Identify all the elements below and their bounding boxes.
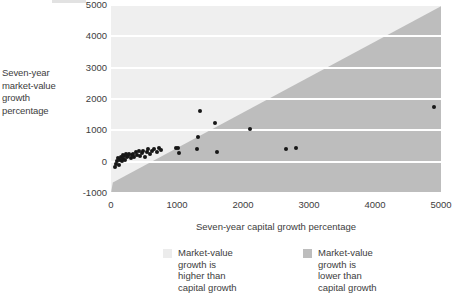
legend-higher-line-3: higher than xyxy=(178,270,237,282)
y-axis-title-line-1: Seven-year xyxy=(2,67,74,80)
x-axis-tick-label: 0 xyxy=(108,199,113,210)
gridline xyxy=(111,192,441,193)
legend-swatch-light-icon xyxy=(163,249,172,258)
scatter-point xyxy=(196,135,200,139)
legend-higher-line-2: growth is xyxy=(178,259,237,271)
y-axis-tick-label: -1000 xyxy=(71,187,107,198)
x-axis-tick-label: 1000 xyxy=(166,199,187,210)
gridline xyxy=(111,35,441,37)
gridline xyxy=(111,161,441,163)
gridline xyxy=(111,67,441,69)
legend-lower-line-1: Market-value xyxy=(318,247,377,259)
y-axis-title-line-4: percentage xyxy=(2,105,74,118)
y-axis-tick-label: 3000 xyxy=(71,62,107,73)
gridline xyxy=(111,98,441,100)
scatter-point xyxy=(284,147,288,151)
legend-label-lower: Market-value growth is lower than capita… xyxy=(318,247,377,293)
plot-area xyxy=(111,5,441,193)
x-axis-tick-label: 2000 xyxy=(232,199,253,210)
scatter-point xyxy=(155,150,159,154)
y-axis-tick-label: 1000 xyxy=(71,124,107,135)
y-axis-tick-label: 4000 xyxy=(71,30,107,41)
scatter-point xyxy=(159,148,163,152)
scatter-point xyxy=(117,163,121,167)
legend-lower-line-4: capital growth xyxy=(318,282,377,294)
x-axis-tick-label: 4000 xyxy=(364,199,385,210)
legend-higher-line-1: Market-value xyxy=(178,247,237,259)
legend-swatch-dark-icon xyxy=(303,249,312,258)
scatter-point xyxy=(215,150,219,154)
scatter-point xyxy=(143,155,147,159)
y-axis-title: Seven-year market-value growth percentag… xyxy=(2,67,74,117)
legend-item-higher: Market-value growth is higher than capit… xyxy=(163,247,237,293)
scatter-point xyxy=(176,146,180,150)
y-axis-tick-labels: -1000010002000300040005000 xyxy=(67,0,107,200)
x-axis-title: Seven-year capital growth percentage xyxy=(111,221,441,232)
y-axis-tick-label: 2000 xyxy=(71,93,107,104)
x-axis-tick-labels: 010002000300040005000 xyxy=(0,199,441,215)
y-axis-tick-label: 5000 xyxy=(71,0,107,10)
x-axis-tick-label: 5000 xyxy=(430,199,451,210)
legend-higher-line-4: capital growth xyxy=(178,282,237,294)
y-axis-title-line-3: growth xyxy=(2,92,74,105)
chart-legend: Market-value growth is higher than capit… xyxy=(0,247,441,300)
gridline xyxy=(111,129,441,131)
y-axis-tick-label: 0 xyxy=(71,156,107,167)
y-axis-title-line-2: market-value xyxy=(2,80,74,93)
scatter-point xyxy=(177,151,181,155)
scatter-point xyxy=(294,146,298,150)
legend-lower-line-2: growth is xyxy=(318,259,377,271)
legend-label-higher: Market-value growth is higher than capit… xyxy=(178,247,237,293)
gridline xyxy=(111,5,441,6)
legend-item-lower: Market-value growth is lower than capita… xyxy=(303,247,377,293)
x-axis-tick-label: 3000 xyxy=(298,199,319,210)
legend-lower-line-3: lower than xyxy=(318,270,377,282)
